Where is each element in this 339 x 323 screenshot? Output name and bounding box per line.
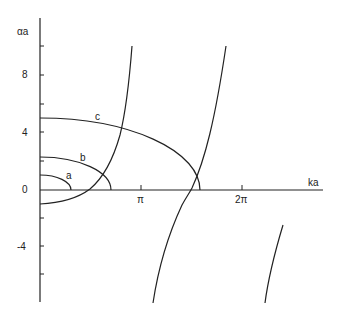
curve-b-label: b [80,152,86,163]
y-axis-label: αa [17,26,29,37]
x-tick-2pi: 2π [235,194,248,205]
branch-1 [40,46,132,204]
curve-a-label: a [66,170,72,181]
curve-c-label: c [95,111,100,122]
curve-b [40,157,111,190]
x-tick-pi: π [137,194,144,205]
curve-c [40,118,200,190]
y-tick-8: 8 [22,69,28,80]
y-tick-neg4: -4 [17,241,26,252]
x-axis-label: ka [308,177,319,188]
y-tick-4: 4 [22,127,28,138]
y-tick-0: 0 [22,184,28,195]
branch-3 [265,225,283,303]
chart: αa 8 4 0 -4 π 2π ka a b c [0,0,339,323]
branch-2 [153,46,226,303]
